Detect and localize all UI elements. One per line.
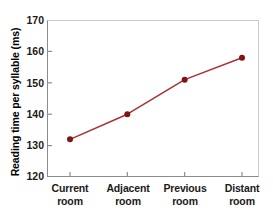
y-tick-label-160: 160	[18, 46, 44, 57]
x-tick-line1: Adjacent	[106, 182, 149, 194]
y-tick-label-130: 130	[18, 140, 44, 151]
x-tick-line1: Previous	[163, 182, 206, 194]
data-point-marker	[239, 55, 245, 61]
data-point-marker	[124, 111, 130, 117]
data-point-marker	[182, 77, 188, 83]
x-tick-line1: Distant	[225, 182, 260, 194]
y-tick-label-120: 120	[18, 171, 44, 182]
y-tick-label-140: 140	[18, 109, 44, 120]
plot-area	[47, 20, 259, 177]
x-tick-line2: room	[207, 195, 273, 208]
x-tick-line1: Current	[52, 182, 89, 194]
x-tick-label-distant-room: Distant room	[207, 182, 273, 207]
series-line	[70, 58, 242, 140]
chart-container: Reading time per syllable (ms) 170 160 1…	[0, 0, 273, 211]
data-point-marker	[67, 136, 73, 142]
y-tick-label-170: 170	[18, 15, 44, 26]
y-tick-label-150: 150	[18, 78, 44, 89]
y-axis-tick-labels: 170 160 150 140 130 120	[16, 0, 44, 211]
